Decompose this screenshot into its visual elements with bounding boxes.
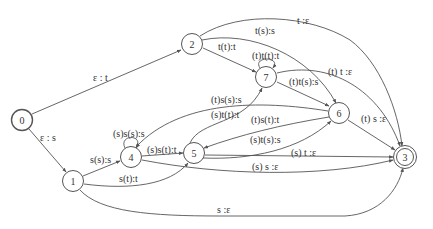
fst-diagram: ε : t ε : s t :ε t(s):s t(t):t (t)t(t):t… [0, 0, 433, 229]
edge-label: (t) s :ε [361, 113, 386, 125]
edge-6-3 [348, 120, 395, 150]
node-4: 4 [121, 147, 142, 168]
svg-text:1: 1 [71, 176, 76, 187]
edge-label: (s) t :ε [291, 147, 316, 159]
edge-label: (s)s(s):s [113, 128, 145, 140]
svg-text:5: 5 [192, 148, 197, 159]
edge-label: ε : s [40, 132, 56, 143]
svg-text:7: 7 [264, 72, 269, 83]
node-0: 0 [12, 110, 33, 131]
edge-label: s(s):s [90, 154, 111, 166]
edge-label: s(t):t [119, 173, 138, 185]
node-3-final: 3 [394, 146, 417, 169]
diagram-svg: ε : t ε : s t :ε t(s):s t(t):t (t)t(t):t… [0, 0, 433, 229]
svg-text:0: 0 [20, 115, 25, 126]
edge-label: (s)t(t):t [211, 109, 240, 121]
node-7: 7 [256, 67, 277, 88]
edge-label: s :ε [217, 204, 230, 215]
svg-text:2: 2 [190, 39, 195, 50]
edge-label: (s)s(t):t [147, 144, 177, 156]
edge-label: (s) s :ε [252, 161, 278, 173]
edge-label: t(t):t [218, 41, 236, 53]
node-2: 2 [182, 34, 203, 55]
svg-text:4: 4 [129, 152, 134, 163]
edge-label: (t) t :ε [328, 66, 352, 78]
node-6: 6 [329, 103, 350, 124]
edge-label: (t)t(s):s [289, 76, 319, 88]
node-1: 1 [63, 171, 84, 192]
edge-label: t :ε [297, 15, 309, 26]
svg-text:6: 6 [337, 108, 342, 119]
node-5: 5 [184, 143, 205, 164]
edge-label: (t)s(s):s [211, 94, 242, 106]
edge-label: t(s):s [255, 25, 275, 37]
svg-text:3: 3 [403, 152, 408, 163]
edge-label: (s)t(s):s [250, 134, 281, 146]
edge-label: (t)s(t):t [251, 114, 280, 126]
edge-label: ε : t [93, 72, 108, 83]
edge-label: (t)t(t):t [252, 50, 279, 62]
